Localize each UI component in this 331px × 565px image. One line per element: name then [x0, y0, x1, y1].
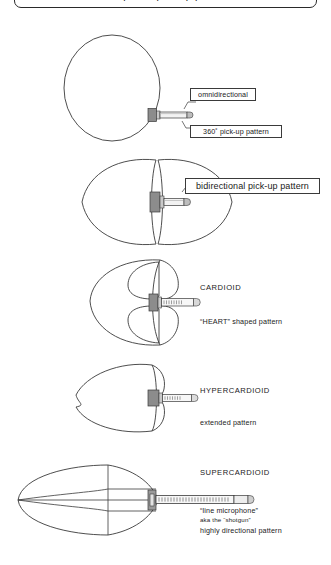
cardioid-description: “HEART” shaped pattern — [200, 317, 282, 326]
supercardioid-heading: SUPERCARDIOID — [200, 468, 270, 478]
microphone-cardioid — [149, 294, 200, 311]
bidirectional-callout-text: bidirectional pick-up pattern — [196, 182, 309, 191]
bidirectional-pattern-graphic — [0, 150, 331, 255]
omnidirectional-callout: omnidirectional — [190, 88, 256, 101]
diagram-bidirectional: bidirectional pick-up pattern — [0, 150, 331, 255]
diagram-hypercardioid: HYPERCARDIOID extended pattern — [0, 355, 331, 440]
diagram-omnidirectional: omnidirectional 360˚ pick-up pattern — [0, 30, 331, 145]
pickup-pattern-callout: 360˚ pick-up pattern — [190, 125, 282, 138]
cardioid-pattern-graphic — [0, 255, 331, 350]
cardioid-heading: CARDIOID — [200, 283, 241, 293]
supercardioid-pattern-graphic — [0, 448, 331, 565]
bidirectional-callout: bidirectional pick-up pattern — [185, 178, 320, 194]
diagram-supercardioid: SUPERCARDIOID “line microphone” aka the … — [0, 448, 331, 565]
pickup-pattern-callout-text: 360˚ pick-up pattern — [203, 128, 269, 135]
supercardioid-description-2: aka the “shotgun” — [200, 516, 251, 524]
omnidirectional-callout-text: omnidirectional — [198, 91, 248, 98]
microphone-bidirectional — [150, 192, 191, 212]
hypercardioid-description: extended pattern — [200, 418, 256, 427]
supercardioid-description-1: “line microphone” — [200, 506, 258, 515]
hypercardioid-heading: HYPERCARDIOID — [200, 386, 270, 396]
page-title-box: microphone pick-up patterns — [14, 0, 317, 8]
microphone-hypercardioid — [148, 390, 198, 406]
diagram-cardioid: CARDIOID “HEART” shaped pattern — [0, 255, 331, 350]
page-title: microphone pick-up patterns — [15, 0, 316, 1]
hypercardioid-pattern-graphic — [0, 355, 331, 440]
microphone-omnidirectional — [148, 109, 193, 122]
supercardioid-description-3: highly directional pattern — [200, 526, 282, 535]
